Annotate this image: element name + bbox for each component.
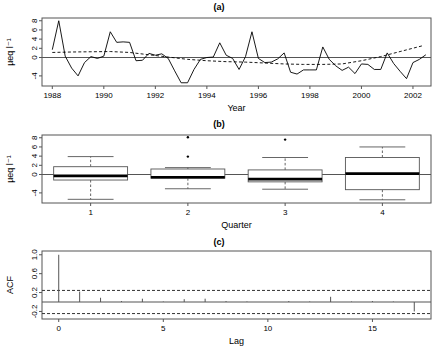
panel-c-xtick-label: 10 bbox=[263, 324, 272, 333]
panel-a-xtick-label: 1996 bbox=[249, 91, 267, 100]
boxplot-group bbox=[345, 147, 419, 200]
panel-a-ytick-label: -4 bbox=[30, 72, 39, 80]
panel-b-ytick-label: -4 bbox=[30, 189, 39, 197]
panel-b-yaxis-label: µeq l⁻¹ bbox=[5, 155, 15, 183]
panel-a-ytick-label: 8 bbox=[30, 18, 39, 23]
box-outlier-point bbox=[187, 155, 189, 157]
panel-b-xtick-label: 4 bbox=[380, 208, 385, 217]
boxplot-group bbox=[248, 138, 322, 189]
panel-a-yaxis-label: µeq l⁻¹ bbox=[5, 38, 15, 66]
panel-c-ytick-label: 0.2 bbox=[30, 286, 39, 298]
panel-a-xtick-label: 2002 bbox=[404, 91, 422, 100]
panel-a-xtick-label: 1998 bbox=[301, 91, 319, 100]
panel-a-xtick-label: 1992 bbox=[146, 91, 164, 100]
panel-a-timeseries: (a) -40246819881990199219941996199820002… bbox=[0, 0, 438, 117]
panel-a-xtick-label: 1994 bbox=[198, 91, 216, 100]
panel-c-xaxis-label: Lag bbox=[229, 336, 244, 346]
panel-a-xtick-label: 1990 bbox=[95, 91, 113, 100]
box-outlier-point bbox=[187, 136, 189, 138]
panel-c-svg: 1.00.60.2-0.2051015LagACF bbox=[0, 235, 438, 351]
boxplot-group bbox=[151, 136, 225, 189]
box-body bbox=[54, 167, 128, 180]
panel-a-ytick-label: 2 bbox=[30, 46, 39, 51]
panel-a-xtick-label: 1988 bbox=[43, 91, 61, 100]
panel-b-ytick-label: 4 bbox=[30, 153, 39, 158]
panel-c-ytick-label: 0.6 bbox=[30, 268, 39, 280]
panel-b-xtick-label: 2 bbox=[186, 208, 191, 217]
panel-c-xtick-label: 15 bbox=[368, 324, 377, 333]
panel-b-xtick-label: 3 bbox=[283, 208, 288, 217]
panel-c-frame bbox=[42, 251, 431, 319]
panel-a-ytick-label: 4 bbox=[30, 36, 39, 41]
panel-b-ytick-label: 0 bbox=[30, 172, 39, 177]
panel-c-plot: 1.00.60.2-0.2051015LagACF bbox=[0, 235, 438, 351]
boxplot-group bbox=[54, 157, 128, 200]
figure-container: (a) -40246819881990199219941996199820002… bbox=[0, 0, 438, 351]
panel-a-trend-line bbox=[52, 46, 423, 65]
panel-c-ytick-label: -0.2 bbox=[30, 304, 39, 318]
panel-c-acf: (c) 1.00.60.2-0.2051015LagACF bbox=[0, 235, 438, 351]
panel-b-xaxis-label: Quarter bbox=[221, 220, 252, 230]
panel-b-boxplot: (b) -4024681234Quarterµeq l⁻¹ bbox=[0, 117, 438, 235]
panel-b-ytick-label: 2 bbox=[30, 163, 39, 168]
panel-a-ytick-label: 0 bbox=[30, 55, 39, 60]
panel-a-plot: -40246819881990199219941996199820002002Y… bbox=[0, 0, 438, 117]
panel-a-ytick-label: 6 bbox=[30, 27, 39, 32]
panel-c-ytick-label: 1.0 bbox=[30, 249, 39, 261]
box-outlier-point bbox=[284, 138, 286, 140]
panel-b-svg: -4024681234Quarterµeq l⁻¹ bbox=[0, 117, 438, 235]
panel-b-ytick-label: 6 bbox=[30, 144, 39, 149]
panel-c-yaxis-label: ACF bbox=[5, 275, 15, 294]
panel-c-xtick-label: 0 bbox=[57, 324, 62, 333]
panel-a-xaxis-label: Year bbox=[227, 103, 245, 113]
panel-b-plot: -4024681234Quarterµeq l⁻¹ bbox=[0, 117, 438, 235]
panel-b-ytick-label: 8 bbox=[30, 135, 39, 140]
panel-a-svg: -40246819881990199219941996199820002002Y… bbox=[0, 0, 438, 117]
panel-b-xtick-label: 1 bbox=[88, 208, 93, 217]
panel-a-series-line bbox=[52, 21, 426, 83]
panel-a-xtick-label: 2000 bbox=[353, 91, 371, 100]
panel-c-xtick-label: 5 bbox=[161, 324, 166, 333]
